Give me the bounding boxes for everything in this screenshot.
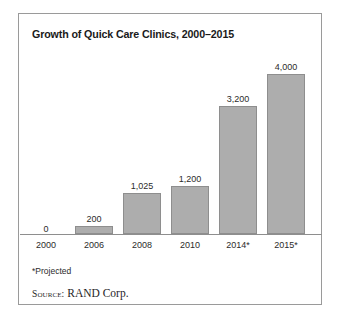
x-axis-tick-label: 2006 xyxy=(75,240,113,250)
x-axis-tick-label: 2010 xyxy=(171,240,209,250)
bar-value-label: 1,200 xyxy=(179,174,202,184)
bar-rect[interactable] xyxy=(123,193,161,234)
x-axis-labels: 2000 2006 2008 2010 2014* 2015* xyxy=(27,240,315,256)
bar-value-label: 0 xyxy=(43,224,48,234)
bar-rect[interactable] xyxy=(219,106,257,234)
source-label: Source: xyxy=(32,289,64,299)
bar-value-label: 1,025 xyxy=(131,181,154,191)
x-axis-tick-label: 2015* xyxy=(267,240,305,250)
bar-group-4: 3,200 xyxy=(219,58,257,234)
bar-rect[interactable] xyxy=(267,74,305,234)
bar-group-0: 0 xyxy=(27,58,65,234)
bar-value-label: 4,000 xyxy=(275,62,298,72)
x-axis-tick-label: 2008 xyxy=(123,240,161,250)
bar-group-2: 1,025 xyxy=(123,58,161,234)
bar-value-label: 200 xyxy=(86,214,101,224)
bar-group-5: 4,000 xyxy=(267,58,305,234)
source-line: Source: RAND Corp. xyxy=(32,287,129,299)
chart-title: Growth of Quick Care Clinics, 2000–2015 xyxy=(32,28,234,40)
bar-rect[interactable] xyxy=(171,186,209,234)
footnote-projected: *Projected xyxy=(32,266,71,276)
x-axis-tick-label: 2014* xyxy=(219,240,257,250)
plot-area: 0 200 1,025 1,200 3,200 4,000 xyxy=(27,58,315,234)
source-value: RAND Corp. xyxy=(64,287,128,299)
x-axis-line xyxy=(20,234,322,235)
bar-group-3: 1,200 xyxy=(171,58,209,234)
chart-figure: Growth of Quick Care Clinics, 2000–2015 … xyxy=(18,13,322,305)
bar-group-1: 200 xyxy=(75,58,113,234)
bar-rect[interactable] xyxy=(75,226,113,234)
x-axis-tick-label: 2000 xyxy=(27,240,65,250)
bar-value-label: 3,200 xyxy=(227,94,250,104)
